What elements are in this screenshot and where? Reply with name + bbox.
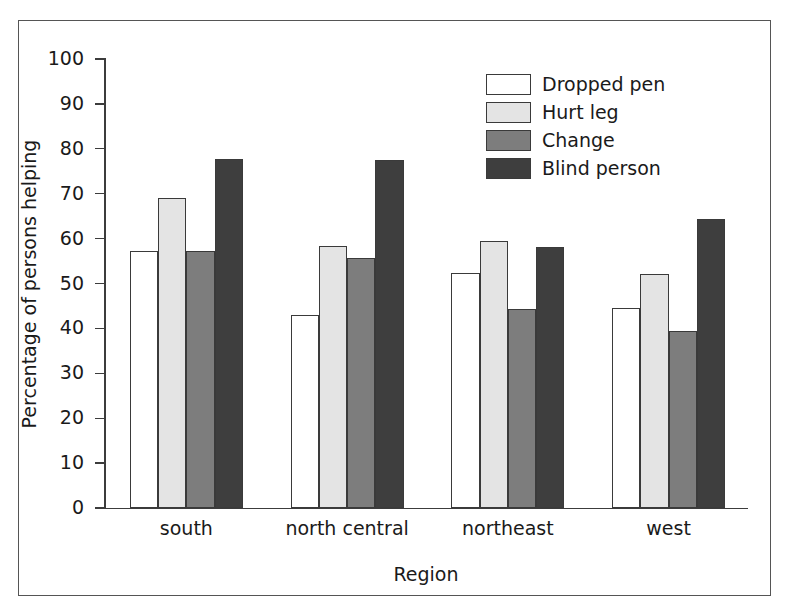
bar — [451, 273, 479, 508]
legend-item: Change — [486, 129, 615, 151]
bar — [291, 315, 319, 508]
y-axis-tick-label: 0 — [38, 498, 84, 517]
y-axis-tick — [95, 283, 104, 284]
bar — [536, 247, 564, 508]
x-axis-tick-label: northeast — [418, 517, 598, 539]
bar — [697, 219, 725, 508]
figure-frame: 0102030405060708090100 Percentage of per… — [18, 20, 771, 596]
y-axis-tick-label: 50 — [38, 274, 84, 293]
bar — [375, 160, 403, 508]
y-axis-tick-label: 30 — [38, 363, 84, 382]
y-axis-tick — [95, 148, 104, 149]
bar — [669, 331, 697, 508]
y-axis-tick — [95, 238, 104, 239]
legend-item: Dropped pen — [486, 73, 665, 95]
y-axis-tick-label: 90 — [38, 94, 84, 113]
figure: 0102030405060708090100 Percentage of per… — [0, 0, 788, 607]
bar — [508, 309, 536, 508]
x-axis-tick-label: west — [579, 517, 759, 539]
y-axis-tick-label: 40 — [38, 318, 84, 337]
y-axis-tick-label: 60 — [38, 229, 84, 248]
legend-swatch — [486, 74, 531, 95]
legend-swatch — [486, 158, 531, 179]
bar — [215, 159, 243, 508]
y-axis-tick — [95, 193, 104, 194]
y-axis-tick — [95, 58, 104, 59]
bar — [640, 274, 668, 508]
legend-swatch — [486, 130, 531, 151]
legend-label: Blind person — [542, 159, 661, 178]
legend-label: Change — [542, 131, 615, 150]
y-axis-tick-label: 10 — [38, 453, 84, 472]
y-axis-tick — [95, 328, 104, 329]
y-axis-line — [104, 58, 106, 509]
y-axis-tick — [95, 462, 104, 463]
bar — [347, 258, 375, 508]
legend-label: Dropped pen — [542, 75, 665, 94]
y-axis-tick — [95, 418, 104, 419]
bar — [480, 241, 508, 508]
bar — [612, 308, 640, 508]
y-axis-tick-label: 70 — [38, 184, 84, 203]
y-axis-tick — [95, 373, 104, 374]
y-axis-tick — [95, 507, 104, 508]
x-axis-title: Region — [104, 563, 748, 585]
legend-item: Blind person — [486, 157, 661, 179]
legend-swatch — [486, 102, 531, 123]
y-axis-tick-label: 100 — [38, 49, 84, 68]
bar — [158, 198, 186, 508]
x-axis-tick-label: north central — [257, 517, 437, 539]
legend-item: Hurt leg — [486, 101, 619, 123]
legend-label: Hurt leg — [542, 103, 619, 122]
y-axis-title: Percentage of persons helping — [17, 59, 39, 508]
y-axis-tick-label: 20 — [38, 408, 84, 427]
x-axis-tick-label: south — [96, 517, 276, 539]
y-axis-tick — [95, 103, 104, 104]
bar — [186, 251, 214, 508]
y-axis-tick-label: 80 — [38, 139, 84, 158]
bar — [319, 246, 347, 508]
bar — [130, 251, 158, 508]
